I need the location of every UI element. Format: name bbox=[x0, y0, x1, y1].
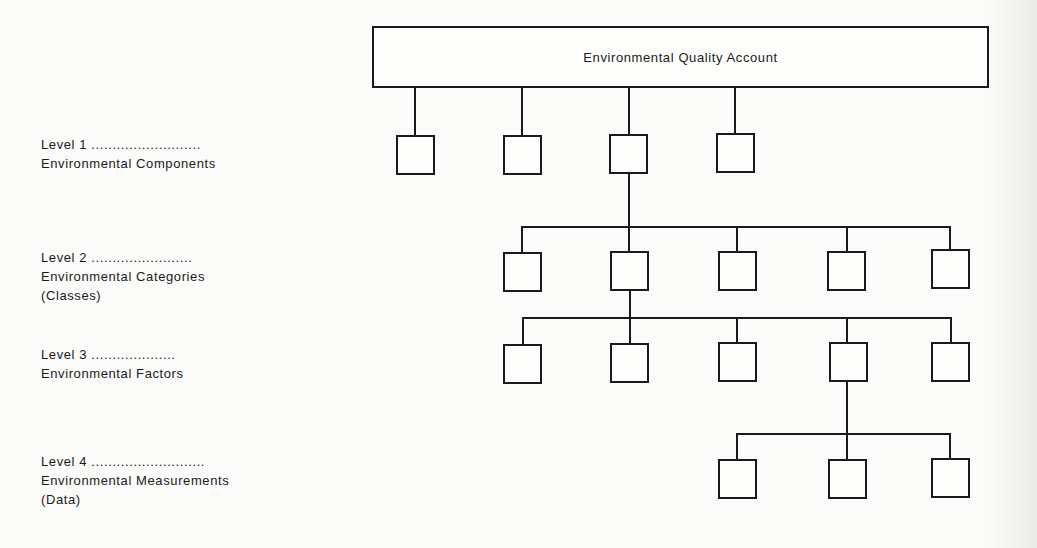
connector-l2-2 bbox=[628, 226, 630, 252]
connector-l3-1 bbox=[522, 317, 524, 344]
root-node-label: Environmental Quality Account bbox=[583, 50, 777, 65]
connector-l4-2 bbox=[846, 433, 848, 459]
connector-l2-4 bbox=[846, 226, 848, 252]
connector-l3-5 bbox=[950, 317, 952, 343]
level-4-node-1 bbox=[718, 459, 757, 499]
level-4-node-3 bbox=[931, 458, 970, 498]
level-2-node-5 bbox=[931, 249, 970, 289]
connector-l3-4 bbox=[846, 317, 848, 343]
connector-l3-3 bbox=[736, 317, 738, 343]
level-3-node-5 bbox=[931, 342, 970, 382]
level-2-node-4 bbox=[827, 251, 866, 291]
level-2-description-sub: (Classes) bbox=[41, 286, 205, 305]
connector-l1-3-down bbox=[628, 174, 630, 227]
level-1-description: Environmental Components bbox=[41, 154, 216, 173]
connector-root-l1-4 bbox=[734, 88, 736, 134]
level-1-node-3 bbox=[609, 134, 648, 174]
level-3-title: Level 3 .................... bbox=[41, 345, 184, 364]
level-1-node-2 bbox=[503, 135, 542, 175]
level-1-node-4 bbox=[716, 133, 755, 173]
connector-l4-1 bbox=[736, 433, 738, 459]
level-3-node-1 bbox=[503, 344, 542, 384]
level-3-node-3 bbox=[718, 342, 757, 382]
level-2-node-3 bbox=[718, 251, 757, 291]
level-1-title: Level 1 .......................... bbox=[41, 135, 216, 154]
level-4-description-sub: (Data) bbox=[41, 490, 229, 509]
connector-l4-3 bbox=[949, 433, 951, 459]
level-1-label: Level 1 .......................... Envir… bbox=[41, 135, 216, 173]
level-4-bus bbox=[736, 433, 951, 435]
level-2-description: Environmental Categories bbox=[41, 267, 205, 286]
level-4-label: Level 4 ........................... Envi… bbox=[41, 452, 229, 509]
level-4-title: Level 4 ........................... bbox=[41, 452, 229, 471]
level-2-label: Level 2 ........................ Environ… bbox=[41, 248, 205, 305]
level-1-node-1 bbox=[396, 135, 435, 175]
level-2-node-1 bbox=[503, 252, 542, 292]
page-edge-shading bbox=[987, 0, 1037, 548]
level-3-node-2 bbox=[610, 343, 649, 383]
level-3-node-4 bbox=[829, 342, 868, 382]
level-2-node-2 bbox=[610, 251, 649, 291]
level-4-description: Environmental Measurements bbox=[41, 471, 229, 490]
connector-l2-5 bbox=[949, 226, 951, 250]
level-4-node-2 bbox=[828, 459, 867, 499]
level-2-title: Level 2 ........................ bbox=[41, 248, 205, 267]
level-3-label: Level 3 .................... Environment… bbox=[41, 345, 184, 383]
connector-l3-4-down bbox=[846, 382, 848, 434]
level-3-description: Environmental Factors bbox=[41, 364, 184, 383]
root-node-environmental-quality-account: Environmental Quality Account bbox=[372, 26, 989, 88]
connector-l2-1 bbox=[521, 226, 523, 252]
connector-l2-2-down bbox=[629, 291, 631, 318]
connector-root-l1-1 bbox=[414, 88, 416, 135]
connector-root-l1-3 bbox=[628, 88, 630, 135]
connector-l2-3 bbox=[736, 226, 738, 252]
connector-l3-2 bbox=[629, 317, 631, 344]
connector-root-l1-2 bbox=[521, 88, 523, 135]
